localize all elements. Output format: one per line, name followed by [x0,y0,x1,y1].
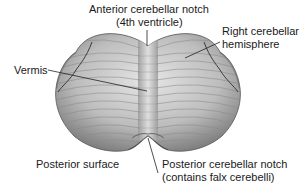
posterior-notch-label: Posterior cerebellar notch [162,158,287,171]
cerebellum-diagram: Anterior cerebellar notch (4th ventricle… [0,0,308,192]
cerebellum-body [55,30,241,160]
anterior-notch-label: Anterior cerebellar notch [89,3,209,16]
vermis-label: Vermis [14,64,48,77]
right-hemisphere-sublabel: hemisphere [222,38,279,51]
posterior-notch-sublabel: (contains falx cerebelli) [162,171,275,184]
posterior-surface-label: Posterior surface [36,158,119,171]
right-hemisphere-label: Right cerebellar [222,25,299,38]
anterior-notch-sublabel: (4th ventricle) [116,16,183,29]
